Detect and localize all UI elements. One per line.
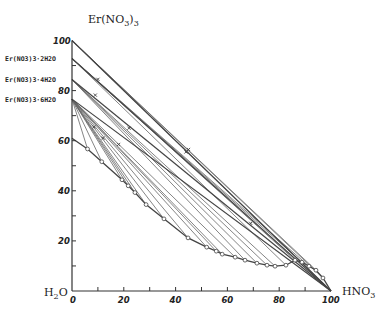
hydrate-label: Er(NO3)3·4H2O [5, 76, 56, 84]
curve-point-marker [220, 252, 224, 256]
curve-point-marker [300, 260, 304, 264]
origin-title: H2O [44, 286, 68, 301]
y-axis-title: Er(NO3)3 [88, 13, 139, 28]
curve-point-marker [307, 264, 311, 268]
curve-point-marker [293, 258, 297, 262]
curve-point-marker [144, 203, 148, 207]
y-tick-label: 80 [58, 86, 70, 96]
x-axis-title: HNO3 [342, 285, 375, 300]
residue-point-marker [96, 78, 99, 81]
axis-labels: 02040608010020406080100Er(NO3)3·2H2OEr(N… [5, 36, 340, 306]
phase-line [72, 80, 331, 291]
residue-point-marker [94, 94, 97, 97]
x-tick-label: 60 [221, 295, 233, 305]
tie-line [72, 80, 267, 266]
curve-point-marker [284, 263, 288, 267]
hydrate-label: Er(NO3)3·2H2O [5, 55, 56, 63]
curve-point-marker [255, 261, 259, 265]
curve-point-marker [314, 268, 318, 272]
curve-point-marker [120, 178, 124, 182]
phase-boundary-lines [72, 41, 331, 292]
x-tick-label: 20 [118, 295, 130, 305]
curve-point-marker [100, 160, 104, 164]
tie-line [72, 80, 245, 261]
axis-ticks [72, 66, 305, 291]
phase-line [72, 59, 331, 291]
curve-point-marker [205, 245, 209, 249]
curve-point-marker [186, 236, 190, 240]
y-tick-label: 60 [58, 136, 70, 146]
curve-point-marker [265, 263, 269, 267]
tie-line [72, 99, 235, 257]
curve-point-marker [162, 217, 166, 221]
residue-point-marker [117, 143, 120, 146]
curve-point-marker [243, 258, 247, 262]
residue-point-marker [249, 222, 252, 225]
phase-line [72, 41, 331, 292]
curve-point-marker [321, 276, 325, 280]
curve-point-marker [86, 147, 90, 151]
x-tick-label: 0 [70, 295, 76, 305]
curve-point-marker [214, 249, 218, 253]
tie-line [72, 99, 222, 254]
y-tick-label: 40 [57, 186, 70, 196]
x-tick-label: 100 [322, 295, 340, 305]
y-tick-label: 100 [53, 36, 71, 46]
curve-point-marker [133, 191, 137, 195]
curve-point-marker [126, 184, 130, 188]
ternary-diagram: 02040608010020406080100Er(NO3)3·2H2OEr(N… [0, 0, 383, 324]
residue-point-marker [127, 127, 130, 130]
curve-point-marker [273, 264, 277, 268]
tie-line [72, 99, 102, 162]
tie-line [72, 99, 188, 238]
y-tick-label: 20 [58, 236, 70, 246]
tie-line [72, 80, 257, 264]
x-tick-label: 40 [169, 295, 182, 305]
hydrate-label: Er(NO3)3·6H2O [5, 96, 56, 104]
tie-line [72, 80, 275, 267]
x-tick-label: 80 [273, 295, 285, 305]
curve-point-marker [233, 255, 237, 259]
